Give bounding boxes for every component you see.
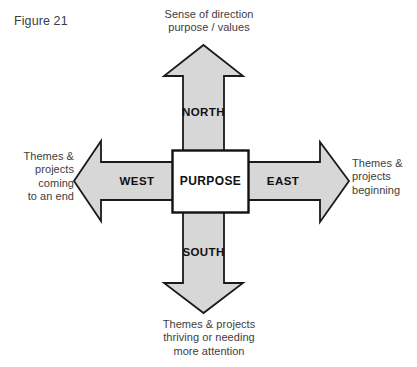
west-caption-line-1: Themes &: [2, 150, 74, 163]
west-label: WEST: [120, 175, 155, 187]
west-caption-line-3: coming: [2, 177, 74, 190]
north-arrow-shape: [164, 45, 243, 152]
south-caption: Themes & projects thriving or needing mo…: [123, 318, 295, 358]
figure-container: Figure 21 NORTH WEST EAST SOUTH PURPOSE …: [0, 0, 417, 367]
south-arrow-shape: [164, 210, 243, 313]
south-caption-line-2: thriving or needing: [123, 331, 295, 344]
east-caption-line-1: Themes &: [352, 157, 417, 170]
west-caption: Themes & projects coming to an end: [2, 150, 74, 204]
east-caption: Themes & projects beginning: [352, 157, 417, 197]
west-caption-line-2: projects: [2, 163, 74, 176]
east-label: EAST: [267, 175, 299, 187]
east-caption-line-3: beginning: [352, 184, 417, 197]
purpose-label: PURPOSE: [180, 174, 241, 188]
east-caption-line-2: projects: [352, 170, 417, 183]
south-label: SOUTH: [182, 246, 224, 258]
north-label: NORTH: [182, 106, 225, 118]
west-caption-line-4: to an end: [2, 190, 74, 203]
north-caption-line-1: Sense of direction: [136, 8, 282, 21]
north-caption-line-2: purpose / values: [136, 21, 282, 34]
south-caption-line-1: Themes & projects: [123, 318, 295, 331]
south-caption-line-3: more attention: [123, 345, 295, 358]
north-caption: Sense of direction purpose / values: [136, 8, 282, 35]
